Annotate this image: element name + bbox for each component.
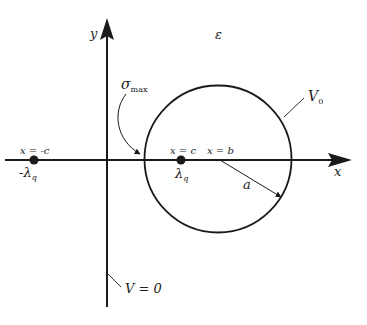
x-b-label: x = b [207, 145, 234, 156]
lambda-negative-label: -λq [19, 165, 37, 182]
v-zero-label: V = 0 [125, 281, 162, 296]
y-axis [100, 18, 114, 307]
radius-label: a [243, 177, 251, 192]
x-c-label: x = c [170, 145, 196, 156]
medium-permittivity-label: ε [215, 27, 222, 42]
lambda-positive-label: λq [174, 166, 188, 183]
sigma-max-label: σmax [121, 76, 148, 94]
sigma-max-arrow [118, 94, 140, 154]
v0-label: V0 [308, 88, 323, 106]
diagram-canvas: ε y x σmax V0 V = 0 x = -c x = c x = b -… [0, 0, 367, 325]
x-axis-label: x [334, 164, 342, 179]
v0-leader-line [284, 98, 304, 117]
x-neg-c-label: x = -c [20, 145, 50, 156]
line-charge-negative [30, 156, 39, 165]
y-axis-label: y [89, 26, 98, 41]
v-zero-leader-line [108, 274, 121, 287]
line-charge-positive [177, 156, 186, 165]
